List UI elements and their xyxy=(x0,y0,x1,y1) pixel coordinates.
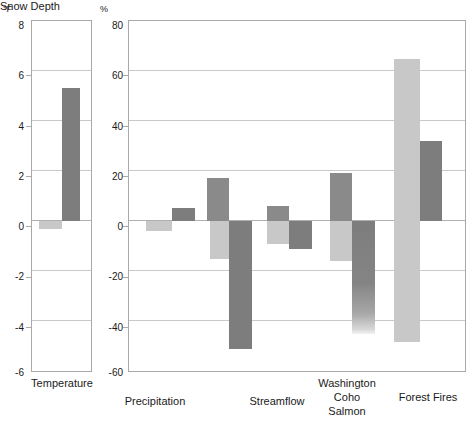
temperature-bars xyxy=(32,21,91,371)
bar-temperature-light xyxy=(39,221,62,229)
group-label-temperature: Temperature xyxy=(22,377,102,390)
bar-precipitation-dark xyxy=(172,208,195,221)
bar-forest-fires-dark xyxy=(420,141,442,221)
left-axis-tick-2: 2 xyxy=(0,171,24,182)
chart-canvas: °F % 8 6 4 2 0 -2 -4 -6 80 60 40 20 0 -2… xyxy=(0,0,474,429)
temperature-plot-area xyxy=(31,20,92,372)
left-axis-tick-neg4: -4 xyxy=(0,322,24,333)
bar-forest-fires-light xyxy=(394,59,420,342)
group-label-precipitation: Precipitation xyxy=(100,395,210,408)
bar-snow-depth-dark xyxy=(229,221,252,349)
bar-streamflow-medium xyxy=(267,206,289,221)
right-axis-tick-80: 80 xyxy=(97,20,123,31)
bar-temperature-dark xyxy=(62,88,80,221)
bar-snow-depth-medium xyxy=(207,178,229,221)
group-label-salmon-line3: Salmon xyxy=(302,405,392,418)
bar-coho-salmon-dark xyxy=(352,221,375,334)
right-axis-tick-neg20: -20 xyxy=(97,271,123,282)
left-axis-tick-8: 8 xyxy=(0,20,24,31)
percent-bars xyxy=(129,21,465,371)
left-axis-tick-6: 6 xyxy=(0,70,24,81)
bar-precipitation-light xyxy=(146,221,172,231)
group-label-forest-fires: Forest Fires xyxy=(385,391,471,404)
percent-plot-area xyxy=(128,20,466,372)
right-axis-tick-0: 0 xyxy=(97,221,123,232)
right-axis-tick-neg40: -40 xyxy=(97,322,123,333)
right-axis-tick-60: 60 xyxy=(97,70,123,81)
group-label-salmon-line2: Coho xyxy=(302,391,392,404)
right-axis-tick-40: 40 xyxy=(97,121,123,132)
left-axis-tick-4: 4 xyxy=(0,121,24,132)
right-axis-unit-label: % xyxy=(100,4,108,14)
left-axis-tick-neg6: -6 xyxy=(0,367,24,378)
right-axis-tick-20: 20 xyxy=(97,171,123,182)
group-label-salmon-line1: Washington xyxy=(302,377,392,390)
bar-coho-salmon-medium xyxy=(330,173,352,221)
group-label-snow-depth: Snow Depth xyxy=(0,0,60,13)
left-axis-tick-0: 0 xyxy=(0,221,24,232)
bar-streamflow-dark xyxy=(289,221,312,249)
left-axis-tick-neg2: -2 xyxy=(0,271,24,282)
